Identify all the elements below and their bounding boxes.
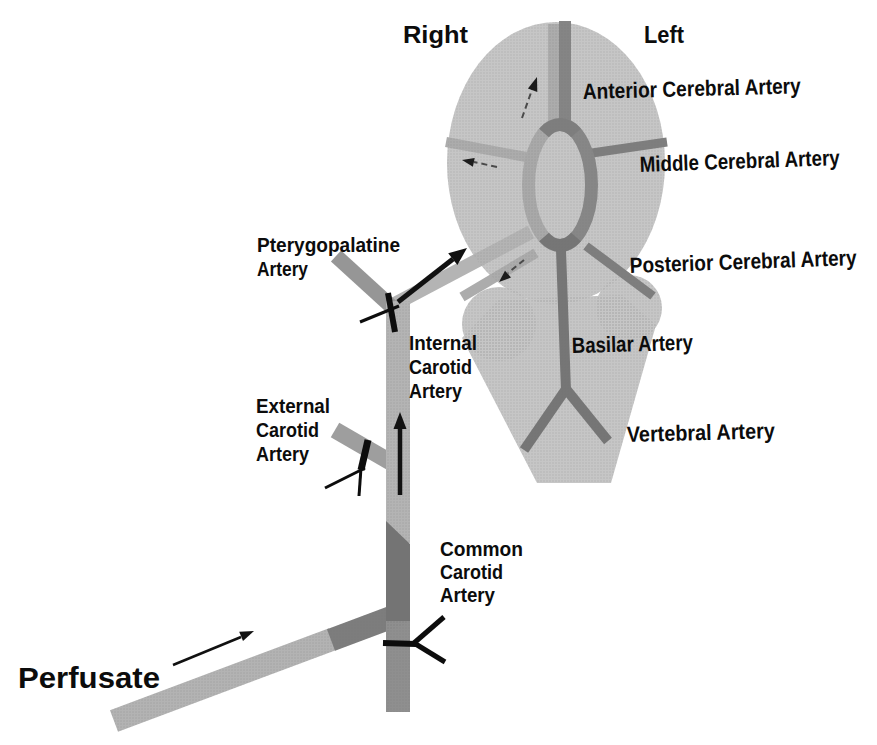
label-internal-carotid-line-2: Carotid	[409, 355, 472, 378]
label-vertebral-artery: Vertebral Artery	[626, 418, 775, 447]
label-perfusate: Perfusate	[18, 661, 160, 694]
pterygopalatine-artery-vessel	[336, 256, 393, 308]
label-common-carotid-line-3: Artery	[440, 583, 495, 606]
label-common-carotid-line-1: Common	[440, 537, 523, 560]
figure-canvas: Right Left Anterior Cerebral Artery Midd…	[0, 0, 877, 745]
label-middle-cerebral-artery: Middle Cerebral Artery	[639, 145, 840, 177]
label-common-carotid-line-2: Carotid	[440, 560, 503, 583]
label-external-carotid-line-3: Artery	[256, 442, 309, 465]
carotid-trunk-halftone-texture	[386, 301, 410, 712]
label-internal-carotid-line-1: Internal	[409, 331, 477, 354]
label-external-carotid-line-2: Carotid	[256, 418, 319, 441]
label-basilar-artery: Basilar Artery	[571, 330, 693, 358]
label-anterior-cerebral-artery: Anterior Cerebral Artery	[582, 73, 801, 104]
label-internal-carotid-line-3: Artery	[409, 379, 462, 402]
cerebral-perfusion-diagram: Right Left Anterior Cerebral Artery Midd…	[0, 0, 877, 745]
label-left-side: Left	[644, 22, 684, 48]
label-right-side: Right	[403, 22, 468, 48]
flow-arrow-perfusate-icon	[173, 631, 254, 665]
label-pterygopalatine-line-1: Pterygopalatine	[257, 233, 400, 256]
label-pterygopalatine-line-2: Artery	[257, 257, 308, 280]
label-external-carotid-line-1: External	[256, 394, 330, 417]
label-posterior-cerebral-artery: Posterior Cerebral Artery	[629, 245, 857, 278]
